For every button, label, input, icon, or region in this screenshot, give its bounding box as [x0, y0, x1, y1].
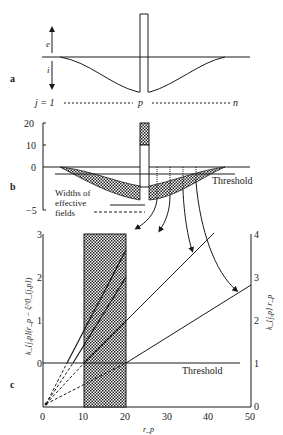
index-end: n — [233, 97, 238, 108]
svg-text:0: 0 — [31, 162, 36, 173]
svg-text:effective: effective — [55, 198, 86, 208]
svg-text:40: 40 — [203, 411, 213, 422]
svg-text:3: 3 — [254, 272, 259, 283]
svg-text:20: 20 — [24, 118, 34, 129]
panel-c-label: c — [10, 379, 15, 390]
panel-c: Threshold 3 2 1 0 4 3 2 1 0 0 10 20 30 4… — [10, 229, 274, 434]
svg-text:fields: fields — [55, 208, 75, 218]
index-middle: p — [137, 97, 143, 108]
threshold-label-c: Threshold — [182, 365, 223, 376]
svg-text:0: 0 — [37, 358, 42, 369]
threshold-label-b: Threshold — [212, 175, 253, 186]
figure: e i a j = 1 p n 20 10 0 −5 Threshold b W… — [0, 0, 283, 435]
left-y-axis-label: k_{j,p}(r_p − ξ^0_{j,p}) — [24, 277, 33, 355]
panel-b-label: b — [10, 181, 16, 192]
svg-text:3: 3 — [37, 229, 42, 240]
svg-text:10: 10 — [26, 140, 36, 151]
svg-text:1: 1 — [37, 315, 42, 326]
svg-text:30: 30 — [162, 411, 172, 422]
panel-b: 20 10 0 −5 Threshold b Widths of effecti… — [10, 118, 253, 290]
svg-text:0: 0 — [40, 411, 45, 422]
svg-text:10: 10 — [78, 411, 88, 422]
svg-text:50: 50 — [245, 411, 255, 422]
excitation-label: e — [46, 39, 50, 49]
inhibition-label: i — [47, 65, 50, 75]
svg-text:−5: −5 — [26, 205, 37, 216]
panel-a: e i a j = 1 p n — [10, 14, 250, 108]
svg-text:4: 4 — [254, 229, 259, 240]
svg-text:2: 2 — [37, 272, 42, 283]
svg-text:1: 1 — [254, 358, 259, 369]
x-axis-label: r_p — [143, 425, 154, 434]
svg-text:20: 20 — [120, 411, 130, 422]
index-start: j = 1 — [33, 97, 55, 108]
svg-text:Widths of: Widths of — [55, 188, 90, 198]
svg-text:2: 2 — [254, 315, 259, 326]
panel-a-label: a — [10, 73, 15, 84]
right-y-axis-label: k_{j,p} r_p — [265, 295, 274, 330]
